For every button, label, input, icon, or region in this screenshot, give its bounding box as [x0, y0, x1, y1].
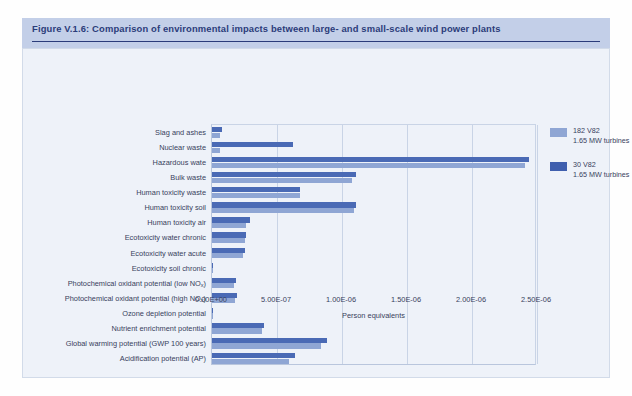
category-label: Human toxicity waste: [0, 185, 206, 200]
category-label: Global warming potential (GWP 100 years): [0, 336, 206, 351]
bar-182-v82: [212, 193, 300, 198]
bar-30-v82: [212, 142, 293, 147]
title-divider: [32, 41, 600, 42]
category-label: Ecotoxicity water acute: [0, 246, 206, 261]
category-label: Ozone depletion potential: [0, 306, 206, 321]
category-label-wrap: Photochemical oxidant potential (low NOx…: [0, 276, 206, 291]
legend-text: 30 V821.65 MW turbines: [573, 160, 629, 179]
category-label-wrap: Ecotoxicity water acute: [0, 246, 206, 261]
bar-30-v82: [212, 232, 246, 237]
x-axis-title: Person equivalents: [211, 311, 536, 320]
legend-label-primary: 30 V82: [573, 160, 629, 170]
legend-swatch: [550, 128, 567, 137]
page-title: Figure V.1.6: Comparison of environmenta…: [32, 23, 501, 34]
bar-30-v82: [212, 202, 356, 207]
bar-30-v82: [212, 278, 236, 283]
x-tick-label: 1.50E-06: [371, 295, 441, 304]
chart-bar-row: Ecotoxicity water chronic: [212, 230, 537, 245]
category-label-wrap: Nutrient enrichment potential: [0, 321, 206, 336]
chart-bar-row: Hazardous wate: [212, 155, 537, 170]
bar-182-v82: [212, 133, 220, 138]
bar-182-v82: [212, 148, 220, 153]
chart-panel: Slag and ashesNuclear wasteHazardous wat…: [22, 48, 610, 378]
bar-30-v82: [212, 338, 327, 343]
category-label-wrap: Global warming potential (GWP 100 years): [0, 336, 206, 351]
bar-182-v82: [212, 343, 321, 348]
bar-182-v82: [212, 359, 289, 364]
chart-bar-row: Global warming potential (GWP 100 years): [212, 336, 537, 351]
legend-label-primary: 182 V82: [573, 126, 629, 136]
category-label: Photochemical oxidant potential (low NOx…: [0, 276, 206, 292]
category-label-wrap: Human toxicity waste: [0, 185, 206, 200]
chart-bar-row: Nutrient enrichment potential: [212, 321, 537, 336]
bar-30-v82: [212, 157, 529, 162]
bar-30-v82: [212, 217, 250, 222]
chart-bar-row: Photochemical oxidant potential (low NOx…: [212, 276, 537, 291]
bar-182-v82: [212, 283, 234, 288]
chart-bar-row: Acidification potential (AP): [212, 351, 537, 366]
category-label: Human toxicity soil: [0, 200, 206, 215]
bar-182-v82: [212, 268, 213, 273]
category-label-wrap: Acidification potential (AP): [0, 351, 206, 366]
category-label-wrap: Bulk waste: [0, 170, 206, 185]
x-tick-label: 5.00E-07: [241, 295, 311, 304]
plot-area: Slag and ashesNuclear wasteHazardous wat…: [211, 124, 536, 365]
legend-swatch: [550, 162, 567, 171]
bar-182-v82: [212, 223, 246, 228]
category-label-wrap: Ecotoxicity soil chronic: [0, 261, 206, 276]
bar-30-v82: [212, 248, 245, 253]
bar-30-v82: [212, 187, 300, 192]
category-label: Acidification potential (AP): [0, 351, 206, 366]
category-label-wrap: Human toxicity air: [0, 215, 206, 230]
bar-182-v82: [212, 178, 352, 183]
legend-label-secondary: 1.65 MW turbines: [573, 170, 629, 180]
x-tick-label: 2.50E-06: [501, 295, 571, 304]
bar-30-v82: [212, 172, 356, 177]
category-label: Slag and ashes: [0, 125, 206, 140]
bar-182-v82: [212, 238, 245, 243]
x-tick-label: 1.00E-06: [306, 295, 376, 304]
legend-label-secondary: 1.65 MW turbines: [573, 136, 629, 146]
chart-bar-row: Ecotoxicity water acute: [212, 246, 537, 261]
bar-182-v82: [212, 253, 243, 258]
chart-bar-row: Slag and ashes: [212, 125, 537, 140]
figure-page: Figure V.1.6: Comparison of environmenta…: [0, 0, 632, 396]
category-label-wrap: Nuclear waste: [0, 140, 206, 155]
category-label-wrap: Ecotoxicity water chronic: [0, 230, 206, 245]
category-label-wrap: Ozone depletion potential: [0, 306, 206, 321]
bar-182-v82: [212, 328, 262, 333]
category-label: Hazardous wate: [0, 155, 206, 170]
chart-bar-row: Bulk waste: [212, 170, 537, 185]
bar-30-v82: [212, 323, 264, 328]
category-label: Ecotoxicity water chronic: [0, 230, 206, 245]
gridline: [537, 125, 538, 364]
category-label-wrap: Hazardous wate: [0, 155, 206, 170]
chart-bar-row: Human toxicity waste: [212, 185, 537, 200]
bar-30-v82: [212, 353, 295, 358]
category-label: Bulk waste: [0, 170, 206, 185]
chart-bar-row: Ecotoxicity soil chronic: [212, 261, 537, 276]
bar-30-v82: [212, 127, 222, 132]
category-label: Nuclear waste: [0, 140, 206, 155]
category-label: Ecotoxicity soil chronic: [0, 261, 206, 276]
chart-bar-row: Human toxicity air: [212, 215, 537, 230]
bar-30-v82: [212, 263, 213, 268]
chart-bar-row: Human toxicity soil: [212, 200, 537, 215]
x-tick-label: 0.00E+00: [176, 295, 246, 304]
category-label: Nutrient enrichment potential: [0, 321, 206, 336]
chart-bar-row: Nuclear waste: [212, 140, 537, 155]
category-label-wrap: Human toxicity soil: [0, 200, 206, 215]
x-tick-label: 2.00E-06: [436, 295, 506, 304]
legend-text: 182 V821.65 MW turbines: [573, 126, 629, 145]
category-label-wrap: Slag and ashes: [0, 125, 206, 140]
bar-182-v82: [212, 208, 354, 213]
bar-182-v82: [212, 163, 525, 168]
category-label: Human toxicity air: [0, 215, 206, 230]
figure-title-band: Figure V.1.6: Comparison of environmenta…: [22, 18, 610, 48]
